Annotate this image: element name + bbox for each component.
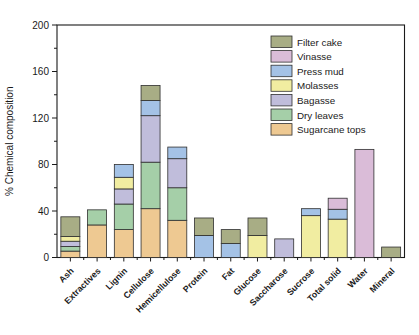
legend-label-dry-leaves: Dry leaves [297, 110, 343, 121]
bar-segment-filter-cake [61, 217, 80, 237]
bar-segment-press-mud [141, 101, 160, 116]
bar-segment-bagasse [141, 116, 160, 163]
y-axis-label: % Chemical composition [4, 87, 15, 197]
legend-label-vinasse: Vinasse [297, 51, 332, 62]
bar-segment-bagasse [61, 241, 80, 246]
bar-segment-molasses [114, 177, 133, 189]
bar-segment-press-mud [328, 209, 347, 219]
legend-label-bagasse: Bagasse [297, 95, 336, 106]
bar-segment-filter-cake [141, 85, 160, 100]
legend-swatch-filter-cake [271, 36, 292, 48]
legend-label-filter-cake: Filter cake [297, 37, 343, 48]
bar-segment-dry-leaves [141, 162, 160, 209]
x-category-label: Mineral [368, 266, 397, 295]
bar-segment-vinasse [328, 198, 347, 209]
legend-swatch-molasses [271, 80, 292, 92]
bar-segment-bagasse [168, 159, 187, 188]
chart-figure: 04080120160200% Chemical compositionAshE… [0, 0, 419, 335]
x-category-label: Fat [220, 266, 236, 282]
bar-segment-sugarcane-tops [168, 220, 187, 257]
x-category-label: Protein [181, 266, 210, 295]
bar-segment-dry-leaves [114, 204, 133, 230]
bar-segment-dry-leaves [168, 188, 187, 221]
legend-swatch-vinasse [271, 51, 292, 63]
bar-segment-sugarcane-tops [61, 251, 80, 257]
legend-swatch-press-mud [271, 65, 292, 77]
bar-segment-press-mud [195, 235, 214, 257]
bar-segment-bagasse [114, 189, 133, 204]
y-tick-label: 80 [38, 159, 50, 170]
legend-swatch-bagasse [271, 94, 292, 106]
y-tick-label: 200 [32, 20, 49, 31]
legend-swatch-dry-leaves [271, 109, 292, 121]
bar-segment-press-mud [114, 165, 133, 178]
bar-segment-filter-cake [382, 247, 401, 257]
legend-swatch-sugarcane-tops [271, 124, 292, 136]
bar-segment-molasses [61, 237, 80, 242]
bar-segment-molasses [301, 216, 320, 258]
y-tick-label: 40 [38, 206, 50, 217]
bar-segment-filter-cake [248, 218, 267, 235]
bar-segment-molasses [248, 235, 267, 257]
y-tick-label: 120 [32, 113, 49, 124]
bar-segment-dry-leaves [61, 246, 80, 251]
bar-segment-molasses [328, 219, 347, 257]
bar-segment-filter-cake [221, 230, 240, 244]
x-category-label: Ash [57, 266, 76, 285]
bar-segment-bagasse [275, 239, 294, 258]
bar-segment-vinasse [355, 149, 374, 257]
bar-segment-sugarcane-tops [88, 225, 107, 258]
x-category-label: Lignin [104, 266, 130, 292]
bar-segment-filter-cake [195, 218, 214, 235]
plot-border [57, 25, 405, 258]
y-tick-label: 0 [43, 252, 49, 263]
x-category-label: Water [346, 265, 371, 290]
legend-label-sugarcane-tops: Sugarcane tops [297, 124, 366, 135]
legend-label-press-mud: Press mud [297, 66, 344, 77]
bar-segment-press-mud [168, 147, 187, 159]
y-tick-label: 160 [32, 66, 49, 77]
bar-segment-press-mud [221, 244, 240, 258]
stacked-bar-chart: 04080120160200% Chemical compositionAshE… [0, 0, 419, 335]
legend-label-molasses: Molasses [297, 80, 338, 91]
bar-segment-sugarcane-tops [114, 230, 133, 258]
bar-segment-press-mud [301, 209, 320, 216]
bar-segment-sugarcane-tops [141, 209, 160, 258]
bar-segment-dry-leaves [88, 210, 107, 225]
